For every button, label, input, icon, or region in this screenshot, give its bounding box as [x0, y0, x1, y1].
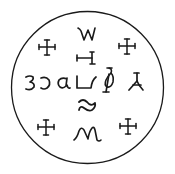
- h-glyph: [77, 52, 95, 64]
- w-glyph: [78, 28, 95, 40]
- cross-icon-top-left: [39, 40, 55, 55]
- m-glyph: [74, 127, 101, 141]
- cross-icon-bottom-left: [38, 120, 54, 135]
- phi-glyph: [103, 68, 113, 92]
- cross-icon-bottom-right: [120, 119, 136, 134]
- inverted-y-glyph: [129, 73, 143, 90]
- open-c-glyph: [41, 77, 50, 89]
- three-glyph: [26, 76, 34, 90]
- cross-icon-top-right: [119, 39, 135, 54]
- seal-diagram: [0, 0, 175, 174]
- alpha-glyph: [58, 78, 70, 88]
- hook-glyph: [77, 76, 96, 88]
- tilde-glyph: [79, 100, 95, 111]
